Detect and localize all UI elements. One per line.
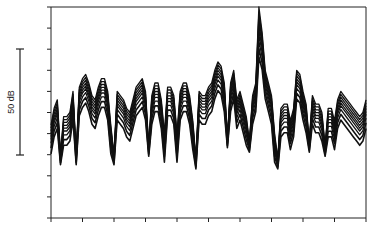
spectrum-line-1 [51, 7, 366, 159]
spectrum-curves [51, 7, 366, 169]
scale-bar-label: 50 dB [6, 90, 16, 114]
scale-bar: 50 dB [6, 49, 24, 155]
x-axis-ticks [51, 218, 366, 222]
spectrum-chart: 50 dB [0, 0, 377, 230]
y-axis-ticks [47, 7, 51, 218]
